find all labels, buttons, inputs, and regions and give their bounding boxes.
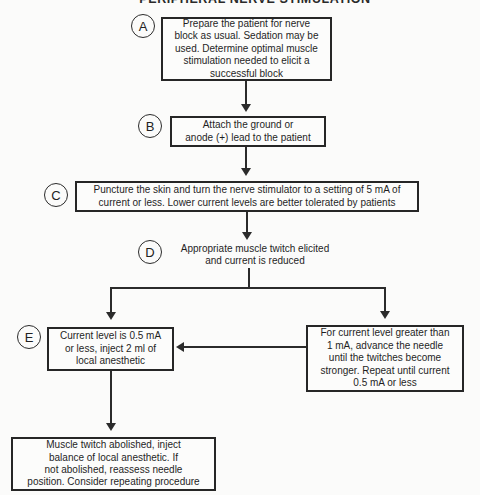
arrow-a-b-line xyxy=(245,81,247,104)
branch-right-line xyxy=(384,287,386,311)
branch-right-head-icon xyxy=(380,311,390,319)
arrow-right-to-e-line xyxy=(184,346,306,348)
step-c-badge-label: C xyxy=(51,188,60,203)
step-c-badge: C xyxy=(44,183,68,207)
branch-left-line xyxy=(110,287,112,312)
branch-stub-line xyxy=(248,268,250,289)
step-b-box: Attach the ground or anode (+) lead to t… xyxy=(170,116,326,147)
page-title: PERIPHERAL NERVE STIMULATION xyxy=(30,0,480,6)
flowchart-canvas: PERIPHERAL NERVE STIMULATION A Prepare t… xyxy=(0,0,480,495)
step-c-box: Puncture the skin and turn the nerve sti… xyxy=(75,181,419,212)
arrow-b-c-head-icon xyxy=(241,168,251,176)
outcome-box: Muscle twitch abolished, inject balance … xyxy=(11,437,216,491)
step-e-badge-label: E xyxy=(25,330,34,345)
arrow-a-b-head-icon xyxy=(241,104,251,112)
step-d-badge: D xyxy=(138,240,162,264)
step-e-text: Current level is 0.5 mA or less, inject … xyxy=(60,330,161,367)
step-b-badge-label: B xyxy=(146,119,155,134)
step-c-text: Puncture the skin and turn the nerve sti… xyxy=(94,184,401,209)
step-a-badge-label: A xyxy=(139,19,148,34)
step-b-badge: B xyxy=(138,114,162,138)
step-e-box: Current level is 0.5 mA or less, inject … xyxy=(47,327,174,371)
branch-left-head-icon xyxy=(106,312,116,320)
step-a-box: Prepare the patient for nerve block as u… xyxy=(161,17,332,81)
advance-needle-text: For current level greater than 1 mA, adv… xyxy=(321,327,450,389)
arrow-e-bottom-line xyxy=(110,371,112,423)
step-b-text: Attach the ground or anode (+) lead to t… xyxy=(185,119,310,144)
advance-needle-box: For current level greater than 1 mA, adv… xyxy=(306,325,464,392)
arrow-e-bottom-head-icon xyxy=(106,423,116,431)
step-a-badge: A xyxy=(131,14,155,38)
arrow-c-d-head-icon xyxy=(242,232,252,240)
step-d-badge-label: D xyxy=(145,245,154,260)
step-d-text: Appropriate muscle twitch elicited and c… xyxy=(165,243,345,268)
arrow-c-d-line xyxy=(246,212,248,232)
arrow-right-to-e-head-icon xyxy=(176,342,184,352)
branch-horizontal-line xyxy=(110,287,386,289)
arrow-b-c-line xyxy=(245,147,247,168)
step-a-text: Prepare the patient for nerve block as u… xyxy=(175,18,319,80)
outcome-text: Muscle twitch abolished, inject balance … xyxy=(27,439,199,489)
step-e-badge: E xyxy=(17,325,41,349)
